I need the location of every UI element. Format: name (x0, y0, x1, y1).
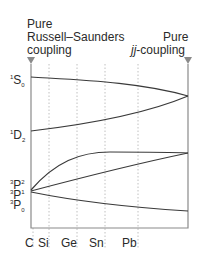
element-Sn: Sn (89, 236, 104, 250)
term-3P0: 3P0 (10, 196, 25, 216)
axes (31, 64, 188, 228)
energy-curves (31, 77, 188, 211)
coupling-diagram (0, 0, 198, 261)
element-Si: Si (38, 236, 49, 250)
rs-marker-icon (27, 57, 35, 64)
element-Pb: Pb (122, 236, 137, 250)
term-1S0: 1S0 (10, 71, 25, 91)
jj-marker-icon (184, 57, 192, 64)
grid-lines (33, 64, 138, 248)
element-C: C (25, 236, 34, 250)
element-Ge: Ge (61, 236, 77, 250)
term-1D2: 1D2 (10, 126, 25, 146)
